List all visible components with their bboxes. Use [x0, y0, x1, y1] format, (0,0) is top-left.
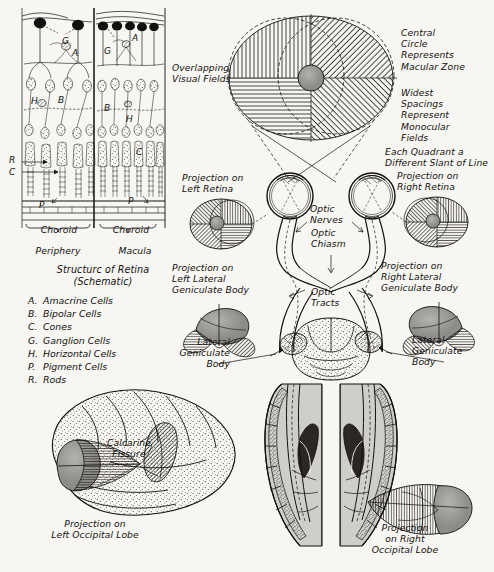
optic-tracts-label: Optic Tracts — [311, 286, 339, 308]
legend-key: A. — [28, 294, 43, 307]
projection-left-occipital-label: Projection on Left Occipital Lobe — [22, 518, 168, 540]
legend-label: Rods — [43, 373, 66, 386]
choroid-right-label: Choroid — [98, 224, 164, 235]
legend-key: H. — [28, 347, 43, 360]
projection-right-occipital-label: Projection on Right Occipital Lobe — [352, 522, 458, 556]
retina-marker-c-right: C — [136, 147, 142, 157]
legend-label: Ganglion Cells — [43, 334, 110, 347]
legend-label: Pigment Cells — [43, 360, 107, 373]
retina-schematic-drawing — [22, 8, 165, 232]
brainstem-drawing — [270, 318, 392, 380]
retina-marker-b-left: B — [58, 95, 64, 105]
calcarine-fissure-label: Calcarine Fissure — [98, 437, 160, 459]
overlapping-visual-fields-label: Overlapping Visual Fields — [172, 62, 228, 84]
widest-spacings-label: Widest Spacings Represent Monocular Fiel… — [401, 87, 450, 143]
projection-right-retina-oval — [392, 197, 468, 247]
retina-marker-r-side: R — [9, 155, 15, 165]
retina-legend: A. Amacrine Cells B. Bipolar Cells C. Co… — [28, 294, 116, 386]
visual-field-diagram — [227, 14, 397, 182]
legend-key: P. — [28, 360, 43, 373]
projection-left-lgb-label: Projection on Left Lateral Geniculate Bo… — [172, 262, 249, 296]
legend-item: H. Horizontal Cells — [28, 347, 116, 360]
projection-right-retina-label: Projection on Right Retina — [397, 170, 458, 192]
legend-label: Cones — [43, 320, 72, 333]
legend-label: Amacrine Cells — [43, 294, 113, 307]
legend-item: C. Cones — [28, 320, 116, 333]
retina-marker-a-right: A — [132, 33, 138, 43]
legend-item: P. Pigment Cells — [28, 360, 116, 373]
projection-left-retina-oval — [190, 199, 268, 249]
legend-key: G. — [28, 334, 43, 347]
retina-marker-h-right: H — [126, 114, 133, 124]
lgb-right-label: Lateral Geniculate Body — [412, 334, 462, 368]
retina-marker-p-right: P — [128, 196, 133, 206]
legend-key: C. — [28, 320, 43, 333]
retina-figure-subtitle: (Schematic) — [28, 276, 178, 288]
retina-marker-b-right: B — [104, 103, 110, 113]
optic-chiasm-label: Optic Chiasm — [311, 227, 346, 249]
retina-figure-title: Structurc of Retina — [28, 264, 178, 276]
legend-key: B. — [28, 307, 43, 320]
retina-marker-p-left: P — [39, 200, 44, 210]
projection-right-lgb-label: Projection on Right Lateral Geniculate B… — [381, 260, 458, 294]
macula-label: Macula — [100, 245, 170, 256]
projection-left-retina-label: Projection on Left Retina — [182, 172, 243, 194]
central-circle-label: Central Circle Represents Macular Zone — [401, 27, 465, 72]
periphery-label: Periphery — [22, 245, 94, 256]
each-quadrant-label: Each Quadrant a Different Slant of Line — [385, 146, 488, 168]
legend-item: G. Ganglion Cells — [28, 334, 116, 347]
retina-marker-a-left: A — [72, 48, 78, 58]
legend-label: Horizontal Cells — [43, 347, 116, 360]
legend-item: B. Bipolar Cells — [28, 307, 116, 320]
legend-item: A. Amacrine Cells — [28, 294, 116, 307]
retina-marker-h-left: H — [31, 96, 38, 106]
legend-key: R. — [28, 373, 43, 386]
choroid-left-label: Choroid — [25, 224, 93, 235]
legend-item: R. Rods — [28, 373, 116, 386]
retina-marker-g-right: G — [104, 46, 111, 56]
optic-nerves-label: Optic Nerves — [310, 203, 343, 225]
retina-marker-c-side: C — [9, 167, 15, 177]
retina-marker-g-left: G — [62, 36, 69, 46]
legend-label: Bipolar Cells — [43, 307, 101, 320]
lgb-left-label: Lateral Geniculate Body — [164, 336, 230, 370]
figure-canvas: G G A A B B H H C P P R C Choroid Choroi… — [0, 0, 494, 572]
